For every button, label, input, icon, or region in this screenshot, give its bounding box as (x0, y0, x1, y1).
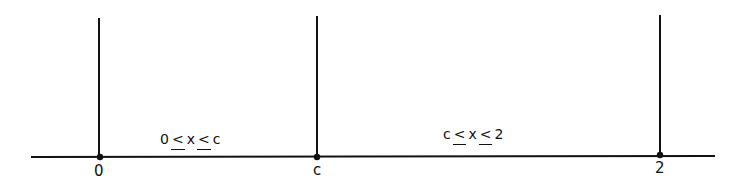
interval-right: 2 (494, 126, 503, 142)
point-2 (657, 152, 663, 158)
leq-symbol: < (198, 132, 210, 146)
diagram-lines (0, 0, 737, 185)
interval-right: c (213, 131, 221, 147)
interval-var: x (468, 126, 476, 142)
axis-line (31, 156, 715, 157)
point-c (314, 154, 320, 160)
tick-label-0: 0 (94, 164, 104, 179)
leq-symbol: < (480, 127, 492, 141)
interval-label-0-c: 0<x<c (160, 132, 220, 146)
leq-symbol: < (172, 132, 184, 146)
interval-label-c-2: c<x<2 (443, 127, 503, 141)
tick-label-c: c (313, 163, 321, 178)
interval-left: c (443, 126, 451, 142)
point-0 (97, 154, 103, 160)
interval-var: x (187, 131, 195, 147)
interval-left: 0 (160, 131, 169, 147)
leq-symbol: < (454, 127, 466, 141)
tick-label-2: 2 (655, 161, 665, 176)
number-line-diagram: 0 c 2 0<x<c c<x<2 (0, 0, 737, 185)
